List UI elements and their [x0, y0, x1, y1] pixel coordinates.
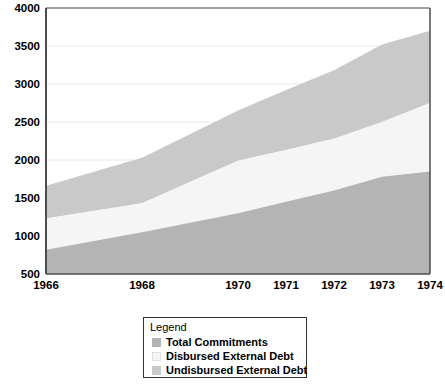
area-chart-figure: 5001000150020002500300035004000 19661968…	[0, 0, 445, 391]
x-tick-label: 1970	[225, 279, 251, 291]
legend-item-total-commitments: Total Commitments	[150, 335, 301, 349]
x-axis-tick-labels: 1966196819701971197219731974	[33, 279, 443, 291]
y-tick-label: 3500	[14, 40, 40, 52]
x-tick-label: 1971	[273, 279, 299, 291]
x-tick-label: 1968	[129, 279, 155, 291]
x-tick-label: 1973	[369, 279, 395, 291]
legend-item-disbursed-external-debt: Disbursed External Debt	[150, 349, 301, 363]
legend-label-undisbursed-external-debt: Undisbursed External Debt	[166, 363, 307, 377]
y-tick-label: 3000	[14, 78, 40, 90]
y-tick-label: 1000	[14, 230, 40, 242]
x-tick-label: 1966	[33, 279, 59, 291]
legend-swatch-undisbursed-external-debt	[152, 366, 161, 375]
x-tick-label: 1972	[321, 279, 347, 291]
legend-swatch-disbursed-external-debt	[152, 352, 161, 361]
y-tick-label: 2000	[14, 154, 40, 166]
y-axis-tick-labels: 5001000150020002500300035004000	[14, 2, 40, 280]
legend-swatch-total-commitments	[152, 338, 161, 347]
y-tick-label: 1500	[14, 192, 40, 204]
y-tick-label: 4000	[14, 2, 40, 14]
legend-title: Legend	[150, 321, 301, 334]
legend-label-disbursed-external-debt: Disbursed External Debt	[166, 349, 294, 363]
legend-item-undisbursed-external-debt: Undisbursed External Debt	[150, 363, 301, 377]
legend-label-total-commitments: Total Commitments	[166, 335, 268, 349]
chart-legend: Legend Total Commitments Disbursed Exter…	[143, 317, 307, 378]
x-tick-label: 1974	[417, 279, 443, 291]
y-tick-label: 2500	[14, 116, 40, 128]
